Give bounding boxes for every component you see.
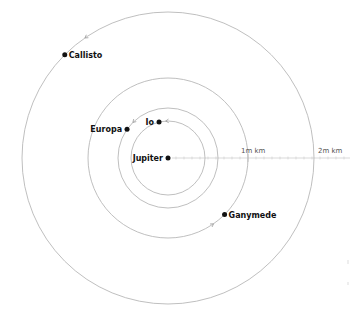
callisto-dot: [62, 52, 67, 57]
jupiter-label: Jupiter: [132, 154, 163, 163]
jupiter-dot: [166, 156, 171, 161]
io-dot: [157, 120, 162, 125]
scale-label-1m: 1m km: [241, 147, 266, 155]
io-label: Io: [146, 118, 155, 127]
europa-label: Europa: [90, 125, 122, 134]
callisto-label: Callisto: [69, 51, 103, 60]
orbit-diagram: Jupiter IoEuropaGanymedeCallisto 1m km 2…: [0, 0, 363, 324]
ganymede-dot: [222, 212, 227, 217]
scale-axis: [172, 154, 350, 162]
europa-dot: [125, 127, 130, 132]
ganymede-label: Ganymede: [229, 211, 277, 220]
scale-labels: 1m km 2m km: [241, 147, 343, 155]
scale-label-2m: 2m km: [318, 147, 343, 155]
